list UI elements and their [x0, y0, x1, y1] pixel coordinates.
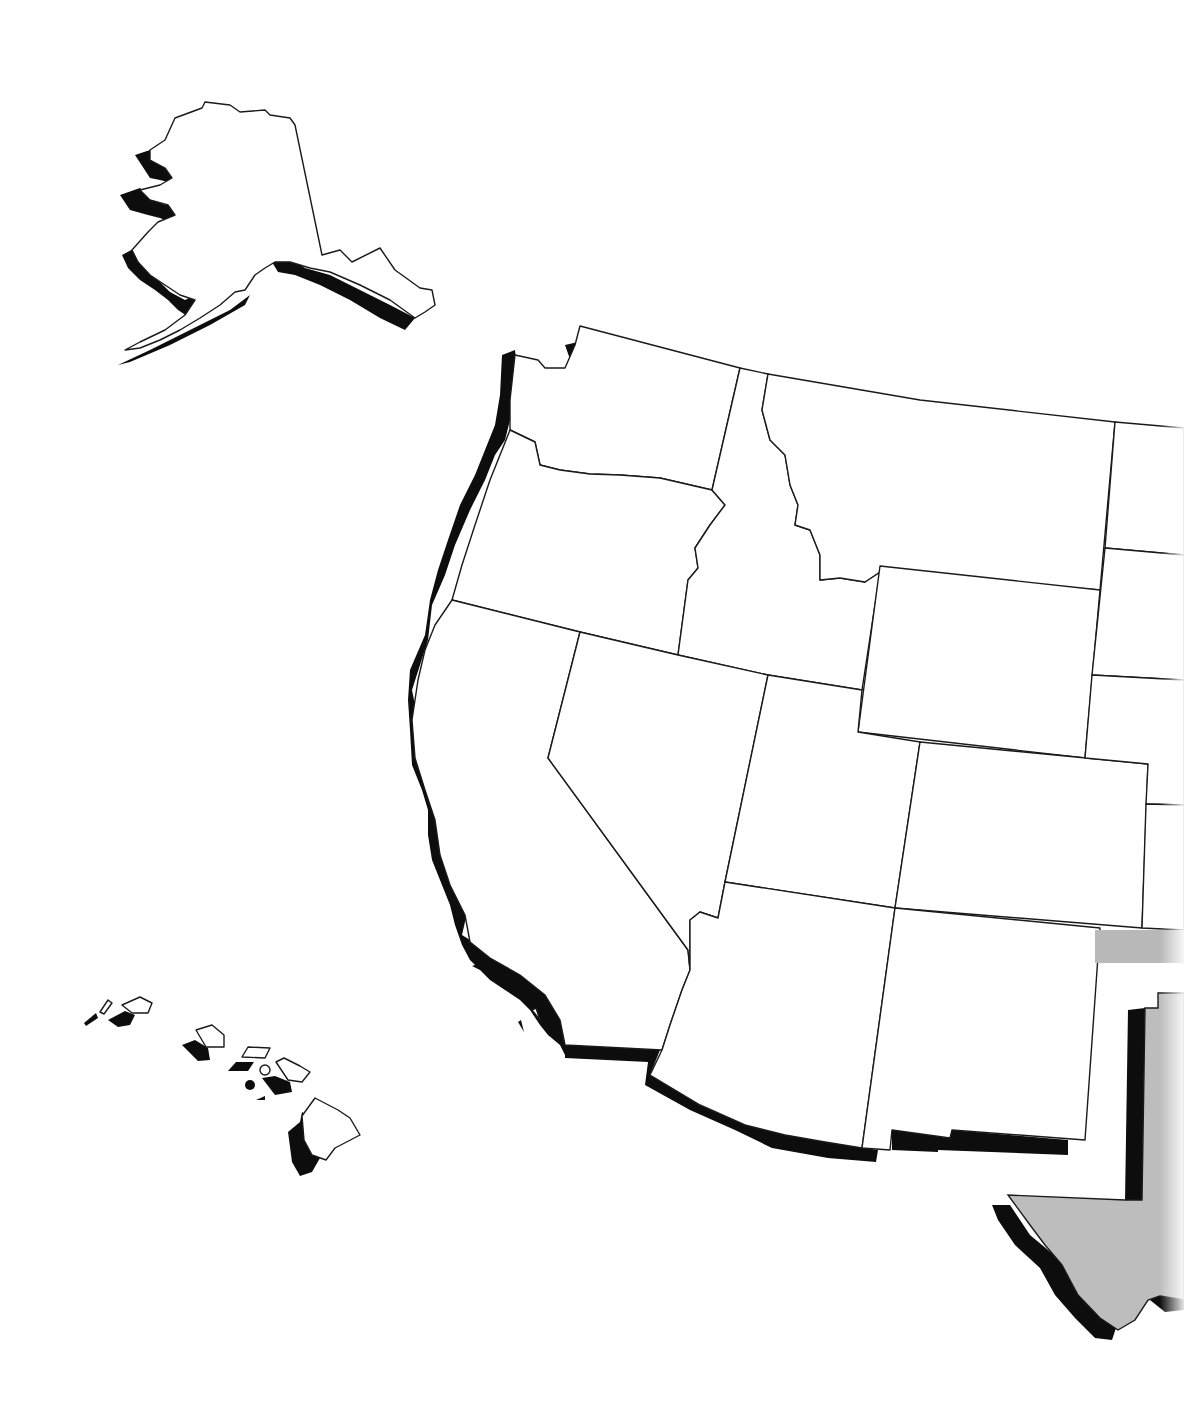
alaska [118, 102, 435, 365]
hawaii-shadow-4 [228, 1062, 254, 1071]
state-washington [510, 326, 740, 490]
state-new-mexico [862, 908, 1100, 1150]
hawaii-island-molokai [242, 1047, 270, 1058]
western-us-outline-map [0, 0, 1184, 1419]
hawaii-island-kahoolawe [245, 1080, 255, 1090]
state-wyoming [858, 566, 1100, 758]
hawaii-shadow-1 [84, 1013, 98, 1026]
hawaii-island-niihau [100, 1000, 112, 1014]
hawaii-island-kauai [122, 997, 152, 1013]
hawaii-shadow-6 [256, 1096, 265, 1100]
page-edge-fade [1160, 0, 1184, 1419]
channel-island-4 [518, 1020, 524, 1032]
hawaii-island-lanai [260, 1065, 270, 1075]
hawaii-island-maui [276, 1058, 310, 1082]
hawaii-shadow-2 [108, 1011, 135, 1027]
hawaii-island-big-island [302, 1098, 360, 1160]
state-colorado [895, 742, 1148, 928]
hawaii [84, 997, 360, 1176]
